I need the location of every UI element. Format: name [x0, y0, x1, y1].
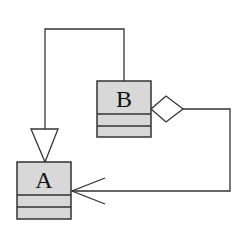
class-a[interactable]: A — [17, 162, 71, 219]
class-b-name: B — [116, 86, 132, 112]
class-a-name: A — [35, 167, 53, 193]
generalization-triangle-icon — [31, 129, 58, 162]
aggregation-diamond-icon — [151, 96, 183, 122]
class-b[interactable]: B — [97, 81, 151, 137]
uml-diagram: B A — [0, 0, 245, 229]
